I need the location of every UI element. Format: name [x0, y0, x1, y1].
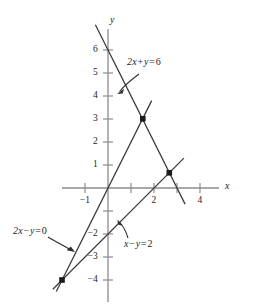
- coordinate-plot: [0, 0, 253, 308]
- y-tick-label--3: −3: [78, 252, 98, 262]
- y-tick-label--2: −2: [78, 229, 98, 239]
- x-axis-label: x: [225, 181, 229, 191]
- eq1-rhs: 6: [156, 56, 161, 67]
- equation-label-2x-plus-y-equals-6: 2x+y=6: [127, 57, 161, 67]
- eq2-lhs-a: 2x: [13, 225, 23, 236]
- leader-arrow-2x-minus-y-equals-0: [48, 237, 72, 251]
- y-tick-label-4: 4: [84, 91, 98, 101]
- y-tick-label-6: 6: [84, 45, 98, 55]
- eq3-rhs: 2: [147, 238, 152, 249]
- y-tick-label-2: 2: [84, 137, 98, 147]
- leader-arrow-2x-plus-y-equals-6: [120, 74, 140, 92]
- y-tick-label-5: 5: [84, 68, 98, 78]
- point-2-67-0-67: [167, 170, 173, 176]
- eq2-rhs: 0: [42, 225, 47, 236]
- equation-label-2x-minus-y-equals-0: 2x−y=0: [13, 226, 47, 236]
- eq1-lhs-a: 2x: [127, 56, 137, 67]
- x-tick-label-4: 4: [190, 196, 210, 206]
- line-2x-plus-y-equals-6: [95, 25, 185, 204]
- eq2-equals: =: [35, 225, 42, 236]
- x-tick-label-2: 2: [144, 196, 164, 206]
- eq1-equals: =: [149, 56, 156, 67]
- x-tick-label--1: −1: [74, 196, 96, 206]
- leader-arrowhead-2x-minus-y-equals-0: [67, 247, 75, 252]
- point-1-5-3: [140, 116, 146, 122]
- eq3-op: −: [129, 238, 136, 249]
- y-axis-label: y: [110, 15, 114, 25]
- eq1-op: +: [137, 56, 144, 67]
- point--2--4: [59, 277, 65, 283]
- line-2x-minus-y-equals-0: [56, 101, 151, 292]
- eq2-op: −: [23, 225, 30, 236]
- y-tick-label-1: 1: [84, 160, 98, 170]
- leader-arrowhead-2x-plus-y-equals-6: [117, 88, 124, 94]
- graph-figure: 6 5 4 3 2 1 −2 −3 −4 −1 2 4 x y 2x+y=6 2…: [0, 0, 253, 308]
- equation-label-x-minus-y-equals-2: x−y=2: [124, 239, 153, 249]
- y-tick-label--4: −4: [78, 275, 98, 285]
- y-tick-label-3: 3: [84, 114, 98, 124]
